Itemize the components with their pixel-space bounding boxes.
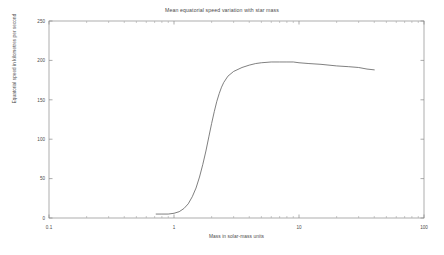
y-axis-ticks: 050100150200250 xyxy=(37,19,424,221)
x-axis-ticks: 0.1110100 xyxy=(46,21,428,230)
y-tick-label: 0 xyxy=(42,216,45,221)
x-tick-label: 100 xyxy=(420,225,428,230)
axes-frame xyxy=(49,21,424,218)
y-tick-label: 100 xyxy=(37,137,45,142)
y-tick-label: 150 xyxy=(37,98,45,103)
x-tick-label: 10 xyxy=(296,225,302,230)
y-tick-label: 50 xyxy=(40,176,46,181)
plot-area: 0.1110100 050100150200250 xyxy=(0,0,444,255)
x-tick-label: 1 xyxy=(173,225,176,230)
plot-frame xyxy=(49,21,424,218)
x-tick-label: 0.1 xyxy=(46,225,53,230)
chart-figure: Mean equatorial speed variation with sta… xyxy=(0,0,444,255)
data-line xyxy=(156,62,374,214)
y-tick-label: 250 xyxy=(37,19,45,24)
data-series-group xyxy=(156,62,374,214)
y-tick-label: 200 xyxy=(37,58,45,63)
